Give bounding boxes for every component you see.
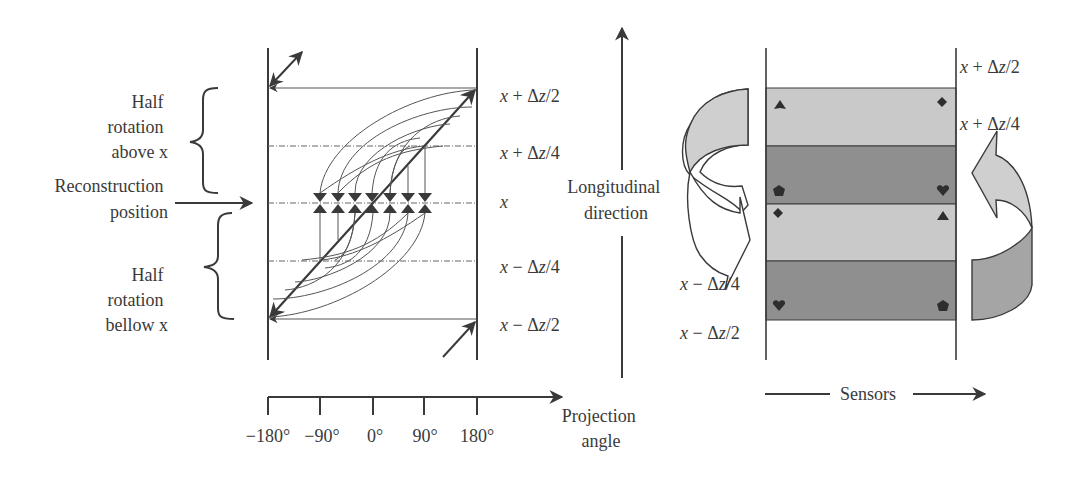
label-reconstruction-position: Reconstruction position bbox=[55, 176, 168, 222]
longitudinal-direction-axis: Longitudinal direction bbox=[567, 28, 665, 378]
tick-label-0: 0° bbox=[367, 426, 383, 446]
label-half-below: Half rotation bellow x bbox=[106, 265, 169, 335]
level-label-left-minus-half: x − Δz/2 bbox=[679, 323, 740, 343]
label-longitudinal-direction: Longitudinal direction bbox=[567, 177, 665, 223]
level-label-left-minus-quarter: x − Δz/4 bbox=[679, 274, 740, 294]
arrow-bottom-right bbox=[443, 322, 475, 357]
level-label-minus-half: x − Δz/2 bbox=[499, 315, 560, 335]
level-label-plus-quarter: x + Δz/4 bbox=[499, 143, 560, 163]
band-1-light bbox=[766, 88, 956, 146]
level-labels: x + Δz/2 x + Δz/4 x x − Δz/4 x − Δz/2 bbox=[499, 86, 560, 335]
left-panel: Half rotation above x Reconstruction pos… bbox=[55, 48, 641, 451]
tick-label-minus-90: −90° bbox=[304, 426, 339, 446]
tick-label-90: 90° bbox=[412, 426, 437, 446]
projection-angle-axis: −180° −90° 0° 90° 180° Projection angle bbox=[246, 397, 640, 451]
band-3-light bbox=[766, 204, 956, 261]
band-2-dark bbox=[766, 146, 956, 204]
level-label-minus-quarter: x − Δz/4 bbox=[499, 257, 560, 277]
level-label-right-plus-quarter: x + Δz/4 bbox=[959, 114, 1020, 134]
label-sensors: Sensors bbox=[840, 384, 896, 404]
level-label-right-plus-half: x + Δz/2 bbox=[959, 57, 1020, 77]
tick-label-180: 180° bbox=[460, 426, 494, 446]
band-4-dark bbox=[766, 261, 956, 320]
brace-half-below bbox=[204, 213, 234, 319]
double-arrow-top bbox=[270, 52, 302, 86]
label-half-above: Half rotation above x bbox=[108, 92, 169, 162]
tick-label-minus-180: −180° bbox=[246, 426, 290, 446]
level-label-plus-half: x + Δz/2 bbox=[499, 86, 560, 106]
rotation-arrow-right bbox=[972, 131, 1032, 320]
sensors-axis: Sensors bbox=[765, 384, 985, 404]
right-panel: x + Δz/2 x + Δz/4 x − Δz/4 x − Δz/2 Sens… bbox=[679, 48, 1032, 404]
brace-half-above bbox=[190, 88, 218, 193]
helical-reconstruction-diagram: Half rotation above x Reconstruction pos… bbox=[0, 0, 1074, 483]
rotation-arrow-left bbox=[683, 89, 751, 290]
axis-label-projection-angle: Projection angle bbox=[562, 406, 641, 451]
level-label-x: x bbox=[499, 192, 508, 212]
